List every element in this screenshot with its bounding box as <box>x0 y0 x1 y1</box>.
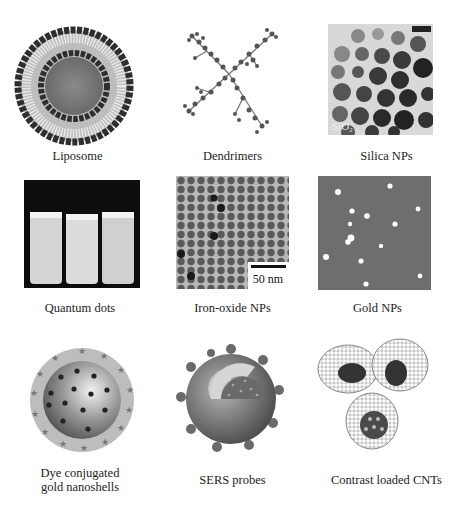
scale-bar-label: 50 nm <box>253 272 284 286</box>
gold-panel: Gold NPs <box>310 165 463 325</box>
dye-nanoshell-illustration: ★★★★ ★★★★ ★★★★ ★★ <box>29 347 135 453</box>
svg-text:★: ★ <box>117 423 125 433</box>
svg-text:★: ★ <box>78 347 86 356</box>
svg-text:★: ★ <box>41 427 49 437</box>
svg-text:★: ★ <box>126 385 134 395</box>
svg-text:★: ★ <box>117 365 125 375</box>
silica-caption: Silica NPs <box>310 149 463 164</box>
iron-oxide-caption: Iron-oxide NPs <box>155 301 310 316</box>
svg-text:★: ★ <box>101 437 109 447</box>
svg-text:★: ★ <box>125 405 133 415</box>
liposome-caption: Liposome <box>0 149 155 164</box>
cnt-caption: Contrast loaded CNTs <box>310 473 463 488</box>
scale-bar <box>412 26 431 32</box>
svg-text:★: ★ <box>51 353 59 363</box>
quantum-dots-photo <box>24 180 140 288</box>
liposome-panel: Liposome <box>0 0 155 165</box>
quantum-dots-caption: Quantum dots <box>0 301 160 316</box>
quantum-dots-panel: Quantum dots <box>0 165 155 325</box>
svg-text:★: ★ <box>59 439 67 449</box>
scale-bar <box>251 265 286 268</box>
sers-panel: SERS probes <box>155 325 310 508</box>
iron-oxide-panel: 50 nm Iron-oxide NPs <box>155 165 310 325</box>
liposome-illustration <box>14 26 134 146</box>
dye-nanoshells-panel: ★★★★ ★★★★ ★★★★ ★★ Dye conjugated gold na… <box>0 325 155 508</box>
svg-text:★: ★ <box>36 369 44 379</box>
silica-inset-label: SiO₂ <box>332 120 353 132</box>
iron-oxide-tem-image: 50 nm <box>176 176 289 289</box>
dendrimers-caption: Dendrimers <box>155 149 310 164</box>
gold-nps-image <box>318 176 431 290</box>
silica-tem-image: SiO₂ <box>328 24 433 135</box>
svg-text:★: ★ <box>100 351 108 361</box>
contrast-loaded-cnt-illustration <box>316 337 434 455</box>
dendrimers-panel: Dendrimers <box>155 0 310 165</box>
gold-caption: Gold NPs <box>310 301 445 316</box>
dye-nanoshells-caption-line2: gold nanoshells <box>0 480 160 495</box>
sers-caption: SERS probes <box>155 473 310 488</box>
dendrimer-molecule-illustration <box>177 26 287 136</box>
sers-probe-illustration <box>175 343 287 455</box>
svg-text:★: ★ <box>31 409 39 419</box>
dye-nanoshells-caption-line1: Dye conjugated <box>0 466 160 481</box>
cnt-panel: Contrast loaded CNTs <box>310 325 463 508</box>
silica-panel: SiO₂ Silica NPs <box>310 0 463 165</box>
svg-text:★: ★ <box>80 443 88 453</box>
svg-text:★: ★ <box>30 388 38 398</box>
